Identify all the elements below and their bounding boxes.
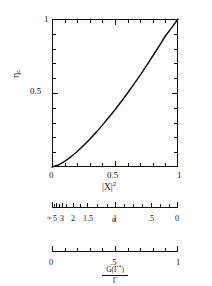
aux1-tick-3: [62, 203, 63, 208]
aux2-tick: [102, 248, 103, 252]
aux2-axis-numerator: G(Γ*): [95, 264, 135, 274]
aux1-tick-2: [73, 203, 74, 208]
aux1-label-3: 3: [60, 214, 64, 223]
aux2-tick-0: [52, 246, 53, 252]
aux2-tick: [128, 248, 129, 252]
aux-axis-gamma: [52, 251, 178, 252]
aux1-tick-5: [56, 203, 57, 208]
aux1-tick: [80, 204, 81, 208]
aux1-tick: [124, 204, 125, 208]
aux2-tick-0.5: [115, 246, 116, 252]
x-tick-label-0.5: 0.5: [107, 170, 118, 180]
aux2-axis-name: G(Γ*) Γ: [95, 264, 135, 285]
aux1-label-2: 2: [71, 214, 75, 223]
aux2-label-1: 1: [176, 257, 180, 267]
aux2-tick: [90, 248, 91, 252]
x-axis-label: |X|2: [102, 180, 116, 192]
aux1-tick: [142, 204, 143, 208]
aux1-label-1.5: 1.5: [83, 214, 93, 223]
aux1-axis-name: α: [112, 215, 116, 224]
y-axis-label-subscript: c: [14, 70, 22, 73]
aux-axis-alpha: [52, 207, 178, 208]
aux1-tick: [160, 204, 161, 208]
aux1-label-infinity: ∞: [47, 214, 52, 222]
figure-canvas: ηc 1 0.5 0 0.5 1 |X|2 ∞ 5 3 2 1.5 1 .5 0…: [0, 0, 212, 286]
x-tick-label-0: 0: [49, 170, 54, 180]
data-curve: [52, 19, 178, 167]
main-plot-panel: [52, 19, 178, 167]
y-axis-label: ηc: [10, 70, 22, 78]
aux2-axis-denominator: Γ: [95, 277, 135, 285]
aux2-tick: [65, 248, 66, 252]
aux1-tick: [169, 204, 170, 208]
y-axis-label-symbol: η: [10, 73, 21, 78]
aux2-tick: [153, 248, 154, 252]
aux2-num-a: G(Γ: [106, 265, 118, 274]
aux2-tick: [140, 248, 141, 252]
aux2-tick: [165, 248, 166, 252]
aux1-label-0.5: .5: [148, 214, 154, 223]
aux2-tick: [77, 248, 78, 252]
aux1-tick: [133, 204, 134, 208]
aux1-label-5: 5: [53, 214, 57, 223]
aux2-tick-1: [177, 246, 178, 252]
aux1-tick-0.5: [151, 203, 152, 208]
y-tick-label-1: 1: [44, 14, 49, 24]
aux1-tick-1: [115, 202, 116, 208]
aux1-tick-1.5: [87, 203, 88, 208]
y-tick-label-0.5: 0.5: [30, 86, 41, 96]
aux1-tick: [107, 204, 108, 208]
x-axis-label-base: |X|: [102, 182, 113, 192]
aux1-tick: [52, 202, 53, 208]
x-axis-label-exponent: 2: [113, 180, 116, 187]
aux2-num-b: ): [121, 265, 124, 274]
aux1-tick: [97, 204, 98, 208]
aux1-tick: [66, 204, 67, 208]
aux2-label-0: 0: [49, 257, 53, 267]
aux1-tick: [59, 204, 60, 208]
x-tick-label-1: 1: [177, 170, 182, 180]
aux1-tick-0: [177, 202, 178, 208]
aux1-label-0: 0: [175, 214, 179, 223]
